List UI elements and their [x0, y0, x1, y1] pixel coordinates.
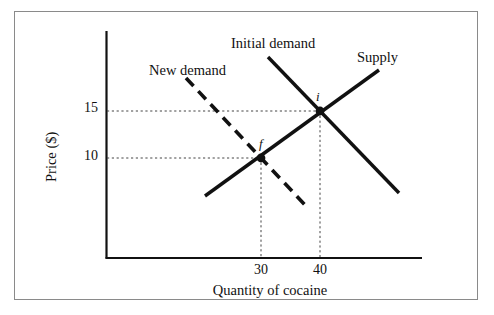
x-axis-title: Quantity of cocaine	[190, 283, 350, 298]
new-demand-label: New demand	[149, 63, 226, 78]
point-label-f: f	[259, 137, 263, 150]
point-label-i: i	[316, 90, 320, 103]
y-tick-label-15: 15	[76, 101, 98, 115]
economics-supply-demand-figure: 15 10 30 40 Quantity of cocaine Price ($…	[0, 0, 494, 315]
point-marker-f	[257, 154, 266, 163]
x-tick-label-40: 40	[305, 263, 335, 277]
initial-demand-curve	[268, 57, 399, 193]
y-tick-label-10: 10	[76, 149, 98, 163]
point-marker-i	[316, 107, 325, 116]
x-tick-label-30: 30	[246, 263, 276, 277]
initial-demand-label: Initial demand	[231, 36, 315, 51]
supply-label: Supply	[357, 50, 398, 65]
supply-curve	[205, 70, 379, 196]
new-demand-curve	[186, 78, 306, 206]
y-axis-title: Price ($)	[44, 132, 59, 182]
